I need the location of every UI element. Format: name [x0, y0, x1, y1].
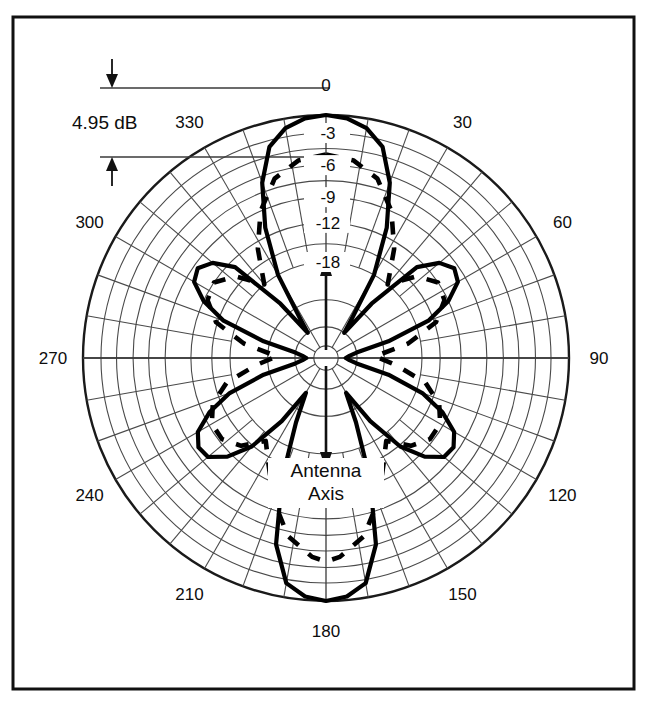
grid-spoke — [416, 391, 554, 441]
grid-spoke — [421, 316, 566, 342]
radial-tick-label-neg12: -12 — [316, 214, 341, 233]
radial-tick-label-neg9: -9 — [320, 188, 335, 207]
gain-arrow-up-head — [106, 157, 118, 171]
angle-tick-label-60: 60 — [553, 213, 572, 232]
gain-annotation-label: 4.95 dB — [72, 112, 138, 133]
angle-tick-label-270: 270 — [39, 349, 67, 368]
angle-tick-label-180: 180 — [312, 622, 340, 641]
grid-spoke — [421, 375, 566, 401]
gain-arrow-down-head — [106, 74, 118, 88]
radial-tick-labels: -3-6-9-12-18 — [304, 123, 350, 272]
grid-spoke — [98, 391, 236, 441]
grid-spoke — [87, 375, 232, 401]
polar-plot-svg: 0306090120150180210240270300330 -3-6-9-1… — [0, 0, 645, 702]
antenna-axis-caption-line2: Axis — [308, 483, 344, 504]
angle-tick-label-0: 0 — [321, 76, 330, 95]
antenna-axis-caption-line1: Antenna — [291, 460, 362, 481]
angle-tick-label-150: 150 — [448, 585, 476, 604]
angle-tick-label-30: 30 — [453, 113, 472, 132]
radial-tick-label-neg18: -18 — [316, 253, 341, 272]
radial-tick-label-neg6: -6 — [320, 156, 335, 175]
angle-tick-label-330: 330 — [175, 113, 203, 132]
angle-tick-label-240: 240 — [75, 486, 103, 505]
angle-tick-label-300: 300 — [75, 213, 103, 232]
antenna-axis-arrow — [320, 258, 332, 470]
grid-spoke — [87, 316, 232, 342]
antenna-pattern-figure: 0306090120150180210240270300330 -3-6-9-1… — [0, 0, 645, 702]
radial-tick-label-neg3: -3 — [320, 124, 335, 143]
angle-tick-label-210: 210 — [175, 585, 203, 604]
angle-tick-label-90: 90 — [590, 349, 609, 368]
angle-tick-label-120: 120 — [548, 486, 576, 505]
